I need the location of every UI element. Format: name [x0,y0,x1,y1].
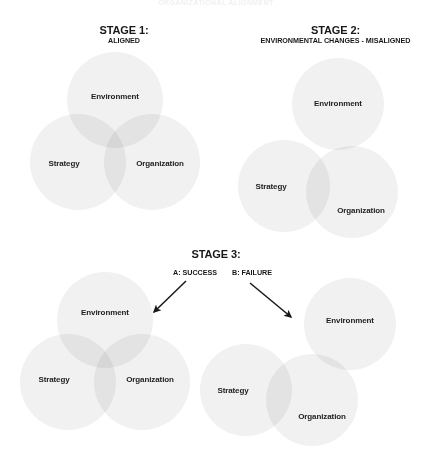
stage-1-strategy-label: Strategy [48,159,79,168]
stage-2-subheading: ENVIRONMENTAL CHANGES - MISALIGNED [243,36,428,46]
stage-2-heading-block: STAGE 2: ENVIRONMENTAL CHANGES - MISALIG… [243,24,428,46]
diagram-canvas: ORGANIZATIONAL ALIGNMENT STAGE 1: ALIGNE… [0,0,432,464]
stage-2-organization-circle [306,146,398,238]
stage-3-heading-block: STAGE 3: [176,248,256,260]
stage-3-failure-organization-circle [266,354,358,446]
stage-3-failure-organization-label: Organization [298,412,346,421]
stage-2-heading: STAGE 2: [243,24,428,36]
stage-1-venn: Environment Strategy Organization [20,52,210,212]
stage-1-subheading: ALIGNED [44,36,204,46]
stage-3-branch-b-label: B: FAILURE [212,268,292,278]
stage-3-failure-venn: Environment Strategy Organization [200,278,400,460]
stage-1-heading: STAGE 1: [44,24,204,36]
stage-3-success-strategy-label: Strategy [38,375,69,384]
page-title: ORGANIZATIONAL ALIGNMENT [0,0,432,6]
stage-2-venn: Environment Strategy Organization [238,58,430,234]
stage-2-strategy-label: Strategy [255,182,286,191]
stage-2-environment-label: Environment [314,99,362,108]
stage-3-success-environment-label: Environment [81,308,129,317]
stage-3-failure-strategy-label: Strategy [217,386,248,395]
stage-3-success-organization-label: Organization [126,375,174,384]
stage-3-heading: STAGE 3: [176,248,256,260]
stage-1-environment-label: Environment [91,92,139,101]
stage-1-organization-label: Organization [136,159,184,168]
stage-3-success-venn: Environment Strategy Organization [10,272,200,432]
stage-2-organization-label: Organization [337,206,385,215]
stage-1-heading-block: STAGE 1: ALIGNED [44,24,204,46]
stage-3-failure-environment-label: Environment [326,316,374,325]
stage-3-branch-b-block: B: FAILURE [212,268,292,278]
